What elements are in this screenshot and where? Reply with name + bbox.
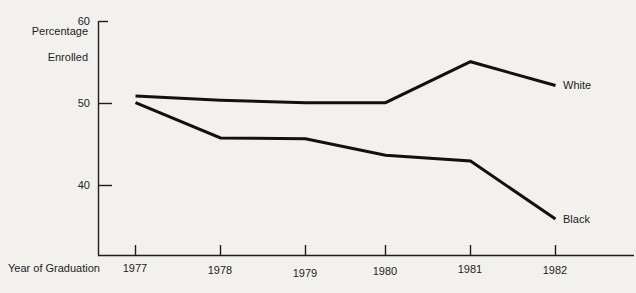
x-tick-label-1977: 1977 (113, 262, 157, 274)
series-label-white: White (563, 79, 591, 91)
x-axis-title: Year of Graduation (8, 262, 120, 275)
line-chart: Percentage Enrolled Year of Graduation 6… (0, 0, 636, 293)
series-line-white (136, 62, 556, 103)
x-tick-label-1979: 1979 (283, 267, 327, 279)
y-tick-label-50: 50 (60, 97, 90, 109)
y-axis-title-line2: Enrolled (8, 51, 88, 64)
x-tick-label-1981: 1981 (448, 263, 492, 275)
x-tick-label-1978: 1978 (198, 264, 242, 276)
chart-plot-area (0, 0, 636, 293)
series-line-black (136, 103, 556, 219)
x-tick-label-1980: 1980 (363, 265, 407, 277)
series-label-black: Black (563, 213, 590, 225)
y-tick-label-60: 60 (60, 15, 90, 27)
x-tick-label-1982: 1982 (533, 264, 577, 276)
y-tick-label-40: 40 (60, 179, 90, 191)
